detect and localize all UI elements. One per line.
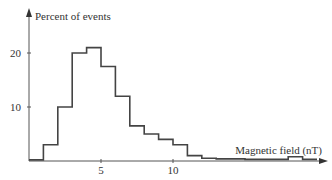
x-axis-arrow-icon (319, 158, 328, 164)
histogram-chart: Percent of events Magnetic field (nT) 51… (0, 0, 332, 180)
histogram-bar (173, 145, 187, 161)
histogram-bar (144, 134, 158, 161)
histogram-bar (58, 107, 72, 161)
histogram-bar (159, 139, 173, 161)
y-tick-label: 10 (10, 101, 22, 113)
y-axis-label: Percent of events (35, 10, 111, 22)
histogram-bar (115, 96, 129, 161)
y-axis-arrow-icon (26, 8, 32, 17)
histogram-bar (87, 48, 101, 161)
histogram-bar (72, 53, 86, 161)
y-tick-label: 20 (10, 47, 22, 59)
x-axis-label: Magnetic field (nT) (235, 144, 322, 157)
histogram-bar (130, 126, 144, 161)
histogram-bar (43, 145, 57, 161)
histogram-bar (101, 67, 115, 162)
x-tick-label: 5 (98, 164, 104, 176)
histogram-bar (187, 156, 201, 161)
x-tick-label: 10 (168, 164, 180, 176)
